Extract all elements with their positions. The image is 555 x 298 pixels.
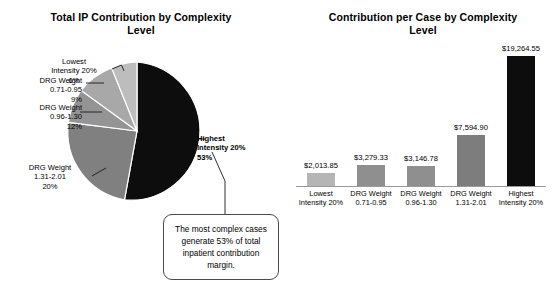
bar-chart-plot: $2,013.85$3,279.33$3,146.78$7,594.90$19,… (296, 40, 546, 187)
bar-chart-panel: Contribution per Case by Complexity Leve… (285, 0, 555, 298)
bar-chart-title: Contribution per Case by Complexity Leve… (318, 11, 528, 37)
bar-value-label: $3,146.78 (404, 154, 438, 163)
bar-column[interactable]: $7,594.90 (457, 123, 485, 187)
bar-tick-label: Lowest Intensity 20% (296, 189, 346, 207)
pie-label-drg-071-095: DRG Weight 0.71-0.95 9% (2, 76, 82, 104)
bar-value-label: $2,013.85 (304, 161, 338, 170)
bar-tick-label: Highest Intensity 20% (496, 189, 546, 207)
bar-rect[interactable] (407, 166, 435, 187)
bar-tick-label: DRG Weight 1.31-2.01 (446, 189, 496, 207)
bar-column[interactable]: $2,013.85 (307, 161, 335, 187)
callout-text: The most complex cases generate 53% of t… (169, 223, 273, 271)
pie-label-drg-096-130: DRG Weight 0.96-1.30 12% (0, 103, 82, 131)
bar-value-label: $3,279.33 (354, 153, 388, 162)
bar-column[interactable]: $3,146.78 (407, 154, 435, 187)
bar-column[interactable]: $19,264.55 (507, 44, 535, 187)
chart-page: Total IP Contribution by Complexity Leve… (0, 0, 555, 298)
bar-tick-label: DRG Weight 0.71-0.95 (346, 189, 396, 207)
bar-rect[interactable] (457, 135, 485, 187)
bar-chart-axis-line (296, 186, 546, 187)
bar-column[interactable]: $3,279.33 (357, 153, 385, 187)
pie-label-drg-131-201: DRG Weight 1.31-2.01 20% (10, 163, 90, 191)
bar-value-label: $19,264.55 (502, 44, 540, 53)
callout-box: The most complex cases generate 53% of t… (163, 214, 279, 280)
bar-rect[interactable] (307, 173, 335, 187)
bar-rect[interactable] (507, 56, 535, 187)
bar-rect[interactable] (357, 165, 385, 187)
bar-tick-label: DRG Weight 0.96-1.30 (396, 189, 446, 207)
bar-value-label: $7,594.90 (454, 123, 488, 132)
pie-label-highest-intensity: Highest Intensity 20% 53% (197, 134, 267, 162)
